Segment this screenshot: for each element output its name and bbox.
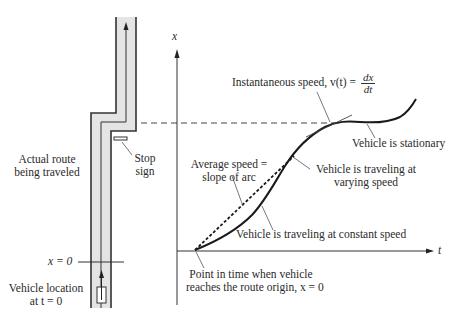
y-axis-label: x (172, 30, 177, 43)
origin-point-label: Point in time when vehicle reaches the r… (186, 268, 316, 294)
tangent-line (306, 115, 352, 137)
average-speed-label: Average speed = slope of arc (187, 158, 271, 184)
varying-speed-line1: Vehicle is traveling at (307, 163, 425, 176)
stop-sign-icon (114, 137, 127, 140)
derivative-denominator: dt (362, 84, 375, 95)
route-label-line1: Actual route (10, 153, 84, 166)
y-axis-arrow-icon (175, 49, 180, 58)
route-label: Actual route being traveled (10, 153, 84, 179)
origin-point-leader (196, 252, 204, 268)
stop-sign-label: Stop sign (128, 152, 162, 178)
stationary-label: Vehicle is stationary (352, 137, 445, 150)
x-axis-arrow-icon (426, 249, 434, 254)
average-speed-line2: slope of arc (187, 171, 271, 184)
route-origin-label: x = 0 (48, 255, 72, 268)
vehicle-location-line1: Vehicle location (8, 282, 84, 295)
varying-speed-line2: varying speed (307, 176, 425, 189)
instantaneous-leader (317, 92, 330, 122)
average-speed-line1: Average speed = (187, 158, 271, 171)
instantaneous-speed-label: Instantaneous speed, v(t) = dxdt (232, 72, 375, 95)
derivative-fraction: dxdt (361, 72, 375, 95)
stop-sign-label-line2: sign (128, 165, 162, 178)
vehicle-location-line2: at t = 0 (8, 295, 84, 308)
origin-point-line2: reaches the route origin, x = 0 (186, 281, 316, 294)
origin-point-line1: Point in time when vehicle (186, 268, 316, 281)
stop-sign-label-line1: Stop (128, 152, 162, 165)
constant-speed-label: Vehicle is traveling at constant speed (236, 228, 406, 241)
route-label-line2: being traveled (10, 166, 84, 179)
x-axis-label: t (438, 244, 441, 257)
instantaneous-speed-text: Instantaneous speed, v(t) = (232, 76, 359, 88)
constant-leader (262, 206, 273, 230)
stationary-leader (367, 124, 375, 138)
vehicle-location-label: Vehicle location at t = 0 (8, 282, 84, 308)
varying-speed-label: Vehicle is traveling at varying speed (307, 163, 425, 189)
